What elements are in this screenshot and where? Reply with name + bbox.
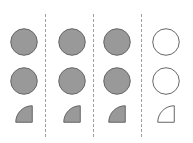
quarter-circle-glyph: [158, 106, 175, 123]
circle-svg: [103, 28, 131, 56]
circle-svg: [10, 67, 38, 95]
circle-glyph: [11, 68, 38, 95]
quarter-circle-svg: [108, 105, 126, 123]
circle-r2-c4: [152, 67, 180, 95]
circle-glyph: [153, 29, 180, 56]
quarter-circle-svg: [63, 105, 81, 123]
column-divider-1: [45, 14, 46, 137]
wedge-r3-c1: [15, 105, 33, 123]
circle-r1-c1: [10, 28, 38, 56]
circle-glyph: [104, 68, 131, 95]
circle-svg: [152, 28, 180, 56]
wedge-r3-c3: [108, 105, 126, 123]
column-divider-3: [141, 14, 142, 137]
circle-svg: [103, 67, 131, 95]
wedge-r3-c4: [157, 105, 175, 123]
quarter-circle-svg: [157, 105, 175, 123]
circle-r2-c1: [10, 67, 38, 95]
shape-grid-canvas: [0, 0, 193, 143]
circle-r1-c2: [58, 28, 86, 56]
circle-glyph: [11, 29, 38, 56]
circle-svg: [58, 28, 86, 56]
quarter-circle-glyph: [16, 106, 33, 123]
quarter-circle-svg: [15, 105, 33, 123]
circle-glyph: [59, 68, 86, 95]
circle-svg: [152, 67, 180, 95]
circle-glyph: [59, 29, 86, 56]
circle-r1-c4: [152, 28, 180, 56]
circle-glyph: [104, 29, 131, 56]
wedge-r3-c2: [63, 105, 81, 123]
circle-svg: [10, 28, 38, 56]
circle-svg: [58, 67, 86, 95]
column-divider-2: [93, 14, 94, 137]
quarter-circle-glyph: [64, 106, 81, 123]
circle-r2-c2: [58, 67, 86, 95]
quarter-circle-glyph: [109, 106, 126, 123]
circle-r1-c3: [103, 28, 131, 56]
circle-glyph: [153, 68, 180, 95]
circle-r2-c3: [103, 67, 131, 95]
